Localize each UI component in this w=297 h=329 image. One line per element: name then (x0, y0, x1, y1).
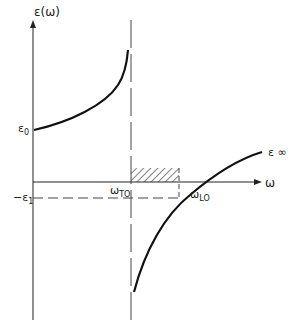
neg-eps1-label: −ε1 (13, 191, 33, 206)
reststrahlen-band (131, 168, 179, 182)
dielectric-diagram: ε(ω) ω ε0 ε ∞ −ε1 ωTO ωLO (0, 0, 297, 329)
omega-to-label: ωTO (110, 184, 130, 199)
eps0-label: ε0 (18, 122, 29, 137)
x-axis-label: ω (265, 176, 275, 190)
omega-lo-label: ωLO (190, 188, 210, 203)
eps-inf-label: ε ∞ (268, 146, 287, 159)
lower-frequency-branch (34, 50, 128, 130)
y-axis-label: ε(ω) (34, 5, 60, 19)
